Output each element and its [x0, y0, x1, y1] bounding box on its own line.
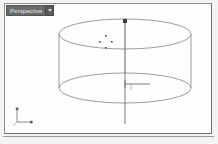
perspective-viewport[interactable]: Z X Y Cylinder Perspective — [4, 3, 212, 134]
viewport-canvas[interactable]: Z X Y Cylinder — [5, 4, 211, 133]
bottom-divider — [3, 136, 214, 137]
tripod-y-axis — [13, 122, 17, 126]
chevron-down-icon[interactable] — [45, 5, 54, 16]
cursor-dot-up — [105, 35, 107, 37]
world-axis-tripod — [13, 108, 33, 127]
move-gizmo[interactable] — [123, 19, 150, 124]
tripod-z-cap — [16, 108, 19, 111]
move-cursor — [99, 35, 113, 49]
viewport-name-label[interactable]: Perspective — [6, 5, 45, 16]
application-window: Z X Y Cylinder Perspective — [0, 0, 218, 144]
cursor-dot-right — [111, 41, 113, 43]
chevron-glyph — [48, 9, 52, 12]
tripod-x-cap — [30, 121, 33, 124]
cursor-dot-left — [99, 41, 101, 43]
viewport-label-group[interactable]: Perspective — [6, 5, 54, 16]
cursor-dot-down — [105, 47, 107, 49]
scene-wireframe — [5, 4, 212, 134]
gizmo-z-handle — [123, 19, 127, 23]
